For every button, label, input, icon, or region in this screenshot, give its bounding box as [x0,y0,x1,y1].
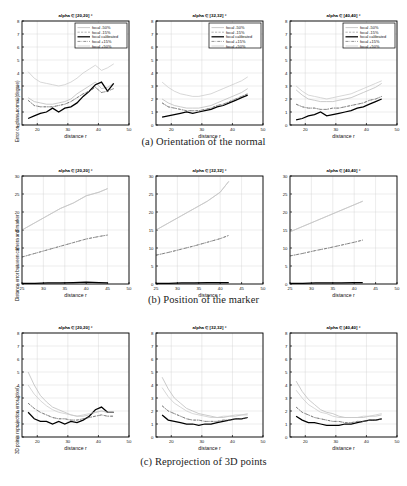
plot-cell-a0: Error on plane normal (degree) alpha ∈ [… [6,10,134,142]
svg-text:50: 50 [127,286,132,291]
svg-text:50: 50 [395,439,400,444]
svg-text:40: 40 [96,439,101,444]
series-line [162,77,248,97]
svg-text:focal +50%: focal +50% [360,44,380,49]
svg-text:45: 45 [105,286,110,291]
plot-a0: alpha ∈ [20,20] °01234567820304050distan… [6,10,134,142]
series-line [296,381,382,417]
series-line [162,94,248,111]
svg-text:35: 35 [196,286,201,291]
series-line [28,403,114,420]
y-axis-label-a: Error on plane normal (degree) [6,10,18,142]
series-line [162,95,248,117]
plot-cell-c1: 3D points reprojection error (pixel) alp… [140,322,268,454]
svg-text:25: 25 [288,286,293,291]
series-line [28,372,114,416]
svg-text:30: 30 [333,127,338,132]
figure-row-a: Error on plane normal (degree) alpha ∈ [… [0,10,407,155]
series-line [290,201,363,232]
y-axis-label-c1: 3D points reprojection error (pixel) [140,322,152,454]
series-line [296,390,382,417]
svg-text:50: 50 [127,439,132,444]
svg-text:40: 40 [352,286,357,291]
series-line [296,99,382,120]
svg-text:alpha ∈ [32,32] °: alpha ∈ [32,32] ° [193,13,227,18]
svg-text:50: 50 [395,127,400,132]
svg-text:30: 30 [199,439,204,444]
series-line [296,96,382,109]
svg-text:focal +50%: focal +50% [92,44,112,49]
figure-row-b: Distance error between camera and marker… [0,165,407,315]
y-axis-label-c2: 3D points reprojection error (pixel) [274,322,286,454]
svg-text:25: 25 [154,286,159,291]
svg-text:20: 20 [169,127,174,132]
svg-text:40: 40 [96,127,101,132]
svg-text:20: 20 [303,439,308,444]
svg-text:40: 40 [218,286,223,291]
svg-text:alpha ∈ [20,20] °: alpha ∈ [20,20] ° [59,13,93,18]
plot-c1: alpha ∈ [32,32] °01234567820304050distan… [140,322,268,454]
series-line [156,181,229,230]
svg-text:alpha ∈ [40,40] °: alpha ∈ [40,40] ° [327,325,361,330]
plot-b1: alpha ∈ [32,32] °05101520253025303540455… [140,165,268,301]
y-axis-label-b2: Distance error between camera and marker [274,165,286,301]
svg-text:30: 30 [41,286,46,291]
series-line [156,235,229,255]
svg-text:30: 30 [65,439,70,444]
svg-text:50: 50 [261,439,266,444]
plot-cell-b2: Distance error between camera and marker… [274,165,402,301]
plot-a1: alpha ∈ [32,32] °01234567820304050distan… [140,10,268,142]
svg-text:20: 20 [35,439,40,444]
svg-text:alpha ∈ [40,40] °: alpha ∈ [40,40] ° [327,13,361,18]
svg-text:alpha ∈ [20,20] °: alpha ∈ [20,20] ° [59,168,93,173]
series-line [162,377,248,417]
svg-text:focal +50%: focal +50% [226,44,246,49]
svg-text:40: 40 [230,439,235,444]
svg-text:40: 40 [230,127,235,132]
series-line [290,283,363,284]
series-line [296,96,382,109]
svg-text:alpha ∈ [40,40] °: alpha ∈ [40,40] ° [327,168,361,173]
plot-cell-b1: Distance error between camera and marker… [140,165,268,301]
svg-text:35: 35 [330,286,335,291]
plot-cell-a1: Error on plane normal (degree) alpha ∈ [… [140,10,268,142]
svg-text:50: 50 [261,286,266,291]
svg-text:25: 25 [20,286,25,291]
svg-text:40: 40 [364,127,369,132]
plot-c2: alpha ∈ [40,40] °01234567820304050distan… [274,322,402,454]
plot-cell-c0: 3D points reprojection error (pixel) alp… [6,322,134,454]
svg-text:alpha ∈ [32,32] °: alpha ∈ [32,32] ° [193,325,227,330]
plot-c0: alpha ∈ [20,20] °01234567820304050distan… [6,322,134,454]
svg-text:40: 40 [84,286,89,291]
svg-text:45: 45 [239,286,244,291]
svg-text:45: 45 [373,286,378,291]
figure-row-c: 3D points reprojection error (pixel) alp… [0,322,407,477]
y-axis-label-b1: Distance error between camera and marker [140,165,152,301]
plot-a2: alpha ∈ [40,40] °01234567820304050distan… [274,10,402,142]
svg-text:20: 20 [169,439,174,444]
series-line [28,87,114,107]
series-line [162,388,248,418]
caption-b: (b) Position of the marker [0,294,407,305]
series-line [28,403,114,420]
caption-a: (a) Orientation of the normal [0,136,407,147]
plot-b0: alpha ∈ [20,20] °05101520253025303540455… [6,165,134,301]
series-line [28,82,114,104]
series-line [28,407,114,424]
y-axis-label-c: 3D points reprojection error (pixel) [6,322,18,454]
plot-b2: alpha ∈ [40,40] °05101520253025303540455… [274,165,402,301]
svg-text:30: 30 [175,286,180,291]
series-line [156,181,229,230]
y-axis-label-a2: Error on plane normal (degree) [274,10,286,142]
series-line [22,282,108,283]
plot-cell-a2: Error on plane normal (degree) alpha ∈ [… [274,10,402,142]
svg-text:distance r: distance r [198,445,221,451]
series-line [28,385,114,416]
plot-cell-b0: Distance error between camera and marker… [6,165,134,301]
svg-text:30: 30 [65,127,70,132]
svg-text:40: 40 [364,439,369,444]
svg-text:alpha ∈ [20,20] °: alpha ∈ [20,20] ° [59,325,93,330]
svg-text:35: 35 [62,286,67,291]
svg-text:20: 20 [35,127,40,132]
figure-root: Error on plane normal (degree) alpha ∈ [… [0,0,407,486]
